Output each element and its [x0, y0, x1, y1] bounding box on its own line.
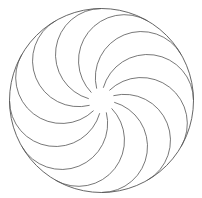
rosette-diagram: [0, 0, 202, 198]
spiral-arc: [102, 102, 148, 192]
spiral-arc: [16, 55, 94, 124]
spiral-arc: [103, 54, 193, 100]
spiral-arc: [22, 112, 108, 169]
spiral-arc: [33, 21, 90, 107]
spiral-arc: [79, 15, 148, 93]
spiral-arc: [55, 9, 101, 99]
spiral-arc: [95, 32, 181, 89]
spiral-arc: [10, 101, 100, 147]
outer-circle: [10, 9, 194, 193]
spiral-arc: [113, 94, 170, 180]
rosette-svg: [0, 0, 202, 198]
spiral-arc: [109, 78, 187, 147]
spiral-arcs: [10, 9, 194, 193]
spiral-arc: [56, 108, 125, 186]
